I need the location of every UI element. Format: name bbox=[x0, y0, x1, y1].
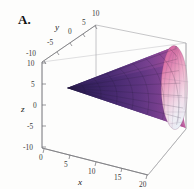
y-tick-label-5: 5 bbox=[82, 18, 86, 27]
axis-x: 0 5 10 15 20 x bbox=[39, 148, 148, 189]
z-tick-label-0: 0 bbox=[33, 101, 37, 110]
y-axis-title: y bbox=[54, 22, 60, 32]
z-tick-label-neg10: -10 bbox=[23, 143, 33, 152]
y-tick-label-0: 0 bbox=[68, 27, 72, 36]
x-tick-label-15: 15 bbox=[114, 173, 122, 182]
axis-z: 10 5 0 -5 -10 z bbox=[20, 59, 46, 152]
cone-surface bbox=[67, 44, 191, 141]
z-tick-label-5: 5 bbox=[31, 80, 35, 89]
figure-panel: A. bbox=[0, 0, 194, 189]
z-axis-title: z bbox=[20, 104, 25, 114]
x-axis-title: x bbox=[77, 177, 83, 187]
surface-plot-3d: -10 -5 0 5 10 y 10 5 0 -5 -10 z bbox=[0, 0, 194, 189]
x-tick-label-20: 20 bbox=[139, 180, 147, 189]
z-tick-label-10: 10 bbox=[27, 59, 35, 68]
x-tick-label-5: 5 bbox=[64, 160, 68, 169]
y-tick-label-neg10: -10 bbox=[26, 49, 36, 58]
x-tick-label-0: 0 bbox=[39, 153, 43, 162]
x-tick-label-10: 10 bbox=[88, 167, 96, 176]
y-tick-label-neg5: -5 bbox=[47, 38, 53, 47]
z-tick-label-neg5: -5 bbox=[27, 122, 33, 131]
y-tick-label-10: 10 bbox=[92, 9, 100, 18]
